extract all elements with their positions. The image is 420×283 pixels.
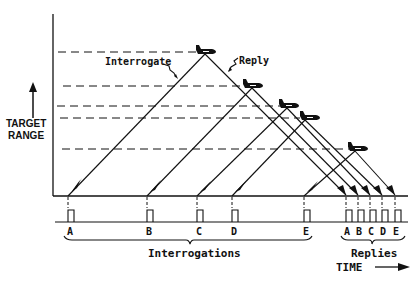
reply-label-d: D	[380, 227, 386, 237]
interrogations-label: Interrogations	[148, 248, 241, 259]
reply-label-b: B	[356, 227, 362, 237]
y-axis-label-line2: RANGE	[6, 130, 46, 142]
airplane-icon	[300, 111, 320, 120]
pulse-drop-lines	[68, 197, 395, 208]
interrogate-arrowheads	[71, 178, 318, 193]
range-dashed-lines	[57, 52, 350, 149]
pulse-label-d: D	[231, 227, 237, 237]
y-axis-label: TARGET RANGE	[6, 118, 46, 142]
airplane-icon	[196, 45, 216, 54]
airplane-icon	[243, 79, 263, 88]
pulse-label-e: E	[303, 227, 309, 237]
reply-arrowheads	[337, 185, 395, 195]
pulse-label-c: C	[196, 227, 202, 237]
reply-label-a: A	[344, 227, 350, 237]
interrogations-brace	[64, 236, 312, 244]
radar-timing-diagram	[0, 0, 420, 283]
pulses	[68, 210, 401, 222]
interrogate-label: Interrogate	[105, 57, 171, 67]
reply-label: Reply	[239, 56, 269, 66]
replies-label: Replies	[351, 248, 397, 259]
pulse-label-b: B	[146, 227, 152, 237]
airplane-icon	[348, 142, 368, 151]
reply-label-e: E	[393, 227, 399, 237]
aircraft-icons	[196, 45, 368, 151]
replies-brace	[341, 236, 405, 244]
time-label: TIME	[336, 262, 363, 273]
reply-label-c: C	[368, 227, 374, 237]
airplane-icon	[279, 99, 299, 108]
y-axis-label-line1: TARGET	[6, 118, 46, 130]
interrogate-rays	[68, 54, 355, 196]
pulse-label-a: A	[67, 227, 73, 237]
